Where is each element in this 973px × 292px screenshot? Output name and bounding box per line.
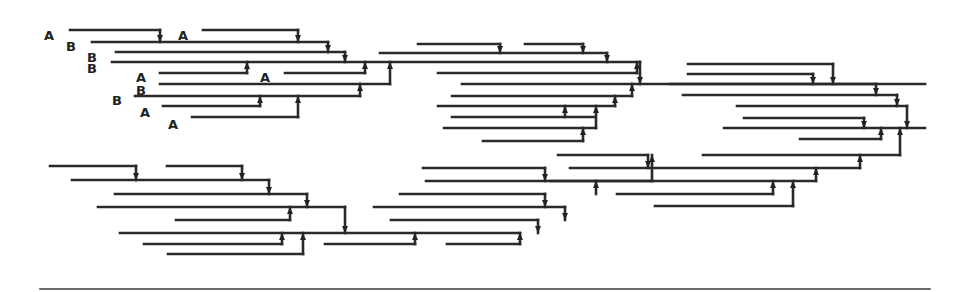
strand-label-a: A bbox=[178, 28, 188, 43]
branching-diagram: ABBBABBAAAA bbox=[0, 0, 973, 292]
arrow-down-icon bbox=[535, 226, 541, 233]
strand-label-b: B bbox=[87, 61, 97, 76]
strand-label-a: A bbox=[44, 28, 54, 43]
strand-label-b: B bbox=[66, 39, 76, 54]
arrow-up-icon bbox=[649, 155, 655, 162]
strand-label-a: A bbox=[168, 117, 178, 132]
line-segments bbox=[50, 30, 925, 254]
arrow-down-icon bbox=[562, 213, 568, 220]
strand-label-a: A bbox=[260, 70, 270, 85]
strand-label-b: B bbox=[136, 83, 146, 98]
strand-label-b: B bbox=[112, 93, 122, 108]
strand-label-a: A bbox=[140, 105, 150, 120]
